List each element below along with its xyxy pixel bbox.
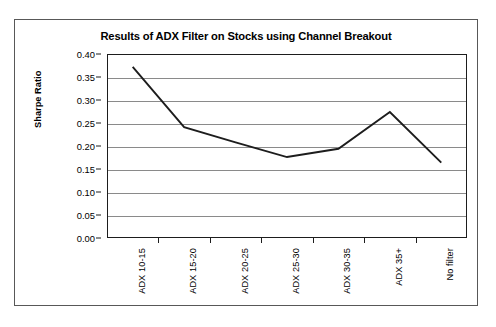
x-tick-label: ADX 25-30 [291, 248, 301, 294]
y-tick-label: 0.10 [77, 187, 95, 198]
x-tick-label: ADX 20-25 [240, 248, 250, 294]
y-tick-label: 0.20 [77, 141, 95, 152]
x-tick-mark [210, 238, 211, 243]
y-tick-label: 0.25 [77, 118, 95, 129]
y-tick-label: 0.30 [77, 95, 95, 106]
x-tick-label: ADX 15-20 [188, 248, 198, 294]
x-tick-label: No filter [445, 248, 455, 281]
data-polyline [133, 67, 442, 163]
series-line-sharpe-ratio [107, 54, 467, 238]
x-tick-label: ADX 30-35 [342, 248, 352, 294]
figure-frame: Results of ADX Filter on Stocks using Ch… [14, 19, 478, 306]
x-tick-mark [261, 238, 262, 243]
y-tick-mark [96, 77, 101, 78]
y-tick-mark [96, 123, 101, 124]
x-tick-mark [313, 238, 314, 243]
y-axis-title: Sharpe Ratio [33, 114, 43, 128]
y-tick-label: 0.05 [77, 210, 95, 221]
y-tick-mark [96, 169, 101, 170]
y-tick-mark [96, 215, 101, 216]
x-tick-mark [416, 238, 417, 243]
x-tick-label: ADX 35+ [394, 248, 404, 286]
y-tick-label: 0.15 [77, 164, 95, 175]
y-tick-label: 0.40 [77, 49, 95, 60]
x-tick-mark [364, 238, 365, 243]
x-tick-mark [158, 238, 159, 243]
x-axis-tick-labels: ADX 10-15ADX 15-20ADX 20-25ADX 25-30ADX … [107, 238, 467, 327]
y-tick-label: 0.35 [77, 72, 95, 83]
y-tick-label: 0.00 [77, 233, 95, 244]
y-tick-mark [96, 54, 101, 55]
y-axis-tick-labels: 0.000.050.100.150.200.250.300.350.40 [55, 54, 101, 238]
y-tick-mark [96, 146, 101, 147]
y-tick-mark [96, 100, 101, 101]
y-tick-mark [96, 238, 101, 239]
y-tick-mark [96, 192, 101, 193]
x-tick-label: ADX 10-15 [137, 248, 147, 294]
chart-title: Results of ADX Filter on Stocks using Ch… [15, 30, 477, 42]
